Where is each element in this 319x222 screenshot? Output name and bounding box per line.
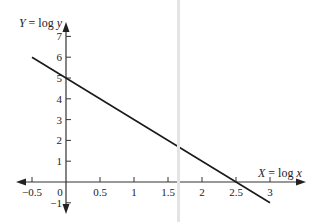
y-axis-arrow-down-icon — [63, 204, 70, 214]
x-tick-label: 1 — [131, 186, 137, 198]
y-tick-label: 3 — [57, 114, 63, 126]
x-tick-label: 1.5 — [161, 186, 175, 198]
data-line — [32, 57, 270, 203]
page-fold-line — [177, 0, 180, 222]
y-tick-label: 1 — [57, 155, 63, 167]
x-axis-title: X = log x — [257, 166, 302, 180]
x-axis-arrow-left-icon — [16, 179, 26, 186]
y-tick-label: −1 — [50, 197, 62, 209]
log-log-line-chart: −0.500.511.522.53 −11234567 Y = log y X … — [0, 0, 319, 222]
x-tick-label: 3 — [267, 186, 273, 198]
y-tick-label: 2 — [57, 134, 63, 146]
x-tick-label: 0.5 — [93, 186, 107, 198]
y-axis-arrow-up-icon — [63, 22, 70, 32]
x-tick-label: 2.5 — [229, 186, 243, 198]
x-tick-label: 2 — [199, 186, 205, 198]
x-axis-ticks: −0.500.511.522.53 — [22, 177, 273, 198]
y-tick-label: 4 — [57, 93, 63, 105]
y-tick-label: 7 — [57, 30, 63, 42]
y-tick-label: 6 — [57, 51, 63, 63]
y-axis-title: Y = log y — [19, 16, 63, 30]
x-tick-label: −0.5 — [22, 186, 42, 198]
